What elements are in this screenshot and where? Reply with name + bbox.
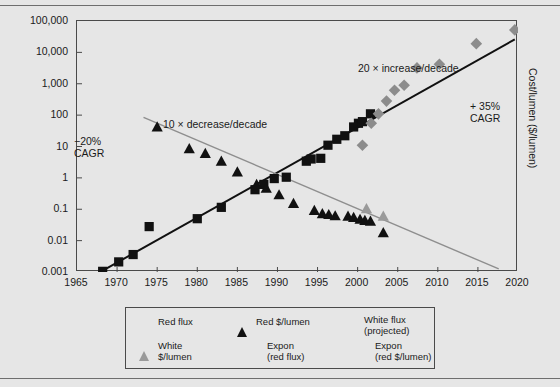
x-tick-label: 1985 [214, 277, 258, 288]
x-tick-label: 1995 [295, 277, 339, 288]
data-point-square [145, 222, 154, 231]
legend-item-white-dollar-per-lumen: White $/lumen [138, 340, 192, 362]
data-point-triangle [288, 198, 299, 208]
x-tick-label: 2020 [495, 277, 539, 288]
y-tick-label: 100,000 [0, 15, 68, 26]
chart-figure: Light output / package (lumens) Cost/lum… [0, 0, 560, 387]
line-gray-marker-icon [344, 340, 368, 353]
legend-item-red-dollar-per-lumen: Red $/lumen [236, 316, 310, 329]
legend-item-expon-red-flux: Expon (red flux) [236, 340, 304, 362]
data-point-square [114, 257, 123, 266]
triangle-marker-icon [236, 316, 249, 329]
data-point-square [270, 174, 279, 183]
data-point-diamond [357, 139, 369, 151]
data-point-diamond [398, 79, 410, 91]
legend-label: Red $/lumen [256, 316, 310, 327]
chart-legend: Red flux Red $/lumen White flux (project… [125, 307, 435, 369]
x-tick-label: 1990 [254, 277, 298, 288]
data-point-diamond [471, 38, 483, 50]
legend-label: White $/lumen [158, 340, 192, 362]
x-tick-label: 1980 [174, 277, 218, 288]
data-point-triangle [232, 166, 243, 176]
legend-item-red-flux: Red flux [138, 316, 193, 329]
data-point-triangle [309, 205, 320, 215]
x-tick-label: 2015 [455, 277, 499, 288]
annotation-increase-rate: 20 × increase/decade [358, 62, 459, 74]
y-tick-label: 10 [0, 141, 68, 152]
annotation-cagr-negative: −20% CAGR [74, 135, 104, 160]
x-tick-label: 2005 [375, 277, 419, 288]
x-tick-label: 2000 [335, 277, 379, 288]
y-axis-right-title: Cost/lumen ($/lumen) [527, 68, 539, 268]
annotation-cagr-positive: + 35% CAGR [470, 100, 500, 125]
data-point-square [193, 214, 202, 223]
data-point-square [340, 131, 349, 140]
bottom-divider-rule [0, 378, 560, 379]
line-marker-icon [236, 340, 260, 353]
x-tick-label: 1975 [134, 277, 178, 288]
data-point-triangle [216, 156, 227, 166]
data-point-diamond [389, 84, 401, 96]
top-divider-rule [0, 5, 560, 6]
x-tick-label: 2010 [415, 277, 459, 288]
y-tick-label: 100 [0, 109, 68, 120]
data-point-diamond [381, 95, 393, 107]
data-point-diamond [365, 117, 377, 129]
trend-line [144, 117, 499, 269]
legend-label: White flux (projected) [364, 314, 409, 336]
data-point-triangle [273, 189, 284, 199]
x-tick-label: 1970 [94, 277, 138, 288]
data-point-triangle [152, 121, 163, 131]
data-point-triangle [200, 148, 211, 158]
y-tick-label: 0.001 [0, 266, 68, 277]
square-marker-icon [138, 316, 151, 329]
y-tick-label: 1 [0, 172, 68, 183]
legend-label: Expon (red flux) [267, 340, 304, 362]
legend-label: Expon (red $/lumen) [375, 340, 432, 362]
diamond-marker-icon [344, 314, 357, 327]
legend-item-expon-red-dollar-per-lumen: Expon (red $/lumen) [344, 340, 432, 362]
y-tick-label: 1,000 [0, 78, 68, 89]
annotation-decrease-rate: 10 × decrease/decade [163, 118, 267, 130]
y-tick-label: 0.01 [0, 235, 68, 246]
legend-item-white-flux-projected: White flux (projected) [344, 314, 409, 336]
data-point-square [358, 117, 367, 126]
data-point-square [217, 203, 226, 212]
data-point-triangle [378, 227, 389, 237]
y-tick-label: 10,000 [0, 46, 68, 57]
plot-area [76, 20, 517, 271]
legend-label: Red flux [158, 316, 193, 327]
plot-canvas [77, 21, 518, 272]
data-point-triangle [184, 143, 195, 153]
data-point-diamond [509, 24, 518, 36]
data-point-square [98, 267, 107, 272]
data-point-triangle [378, 211, 389, 221]
data-point-square [332, 135, 341, 144]
triangle-gray-marker-icon [138, 340, 151, 353]
data-point-square [323, 141, 332, 150]
data-point-square [129, 250, 138, 259]
data-point-triangle [361, 203, 372, 213]
x-tick-label: 1965 [54, 277, 98, 288]
data-point-square [282, 173, 291, 182]
y-tick-label: 0.1 [0, 203, 68, 214]
data-point-square [316, 154, 325, 163]
data-point-square [307, 154, 316, 163]
